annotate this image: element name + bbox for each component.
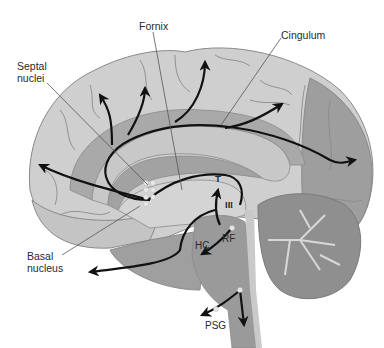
label-hc: HC — [195, 240, 209, 252]
label-cingulum: Cingulum — [281, 29, 325, 41]
brain-sagittal-diagram — [0, 0, 384, 348]
label-psg: PSG — [205, 320, 226, 332]
label-thalamus: T — [215, 173, 221, 185]
label-fornix: Fornix — [139, 20, 168, 32]
label-third-ventricle: III — [225, 199, 233, 211]
label-septal-nuclei: Septal nuclei — [17, 60, 47, 84]
label-basal-nucleus: Basal nucleus — [27, 250, 63, 274]
label-rf: RF — [222, 233, 235, 245]
cerebellum — [258, 194, 361, 299]
